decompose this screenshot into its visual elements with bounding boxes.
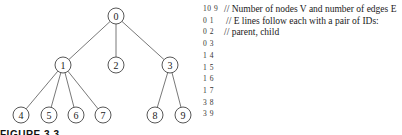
edge-0-3 (122, 21, 164, 59)
tree-node-7: 7 (95, 107, 111, 123)
tree-nodes: 0123456789 (13, 8, 191, 123)
node-label: 0 (114, 11, 119, 22)
node-label: 9 (181, 110, 186, 121)
node-label: 6 (74, 110, 79, 121)
tree-node-8: 8 (147, 107, 163, 123)
edge-1-6 (65, 73, 74, 108)
listing-comment: // Number of nodes V and number of edges… (224, 3, 396, 15)
listing-comment: // E lines follow each with a pair of ID… (226, 15, 379, 27)
tree-node-6: 6 (68, 107, 84, 123)
listing-comment: // parent, child (224, 26, 279, 38)
node-label: 5 (47, 110, 52, 121)
edge-3-8 (157, 73, 167, 108)
edge-pair: 1 7 (203, 85, 214, 97)
tree-node-3: 3 (162, 57, 178, 73)
node-label: 2 (114, 60, 119, 71)
tree-diagram: 0123456789 (0, 0, 200, 135)
node-label: 3 (168, 60, 173, 71)
edge-1-4 (26, 71, 58, 109)
edge-3-9 (172, 73, 181, 108)
figure-caption: FIGURE 3.3 (0, 129, 59, 135)
tree-node-0: 0 (108, 8, 124, 24)
tree-node-2: 2 (108, 57, 124, 73)
edge-pair: 1 4 (203, 50, 214, 62)
edge-pair: 1 5 (203, 62, 214, 74)
node-label: 7 (101, 110, 106, 121)
node-label: 4 (19, 110, 24, 121)
edge-pair: 0 1 (203, 15, 214, 27)
edge-1-7 (68, 71, 98, 109)
tree-edges (26, 21, 181, 108)
node-label: 8 (153, 110, 158, 121)
edge-pair: 3 9 (203, 108, 214, 120)
edge-pair: 1 6 (203, 73, 214, 85)
tree-node-9: 9 (175, 107, 191, 123)
edge-pair: 0 2 (203, 26, 214, 38)
node-label: 1 (61, 60, 66, 71)
tree-node-4: 4 (13, 107, 29, 123)
edge-pair: 0 3 (203, 38, 214, 50)
tree-node-1: 1 (55, 57, 71, 73)
edge-pair: 3 8 (203, 97, 214, 109)
edge-0-1 (69, 21, 110, 59)
tree-node-5: 5 (41, 107, 57, 123)
edge-pair: 10 9 (203, 3, 218, 15)
